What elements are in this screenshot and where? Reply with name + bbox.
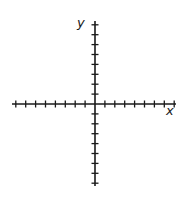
- axes-graphic: [0, 0, 184, 197]
- y-axis-label: y: [77, 16, 85, 29]
- x-axis-label: x: [166, 104, 174, 117]
